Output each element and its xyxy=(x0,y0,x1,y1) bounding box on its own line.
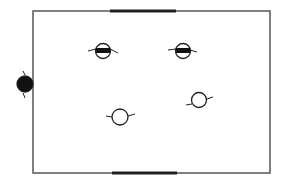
player-arm xyxy=(110,49,118,53)
player-arm xyxy=(128,114,135,116)
player-open-lower-right-icon xyxy=(186,93,213,108)
player-band xyxy=(176,48,191,53)
player-body xyxy=(112,109,128,125)
player-arm xyxy=(168,49,176,50)
players-layer xyxy=(17,44,213,126)
court-boundary xyxy=(33,11,270,173)
player-body xyxy=(192,93,207,108)
court-diagram xyxy=(0,0,283,189)
court-canvas xyxy=(0,0,283,189)
player-band xyxy=(96,48,111,53)
player-arm xyxy=(23,71,25,75)
player-banded-left-icon xyxy=(88,44,118,59)
player-arm xyxy=(106,116,112,117)
player-arm xyxy=(23,93,25,98)
player-banded-right-icon xyxy=(168,44,197,59)
player-arm xyxy=(207,97,213,99)
player-open-lower-left-icon xyxy=(106,109,135,125)
player-filled-sideline-icon xyxy=(17,71,33,98)
player-body xyxy=(17,76,33,92)
player-arm xyxy=(186,104,192,105)
player-arm xyxy=(88,49,96,51)
goals-layer xyxy=(110,11,177,173)
